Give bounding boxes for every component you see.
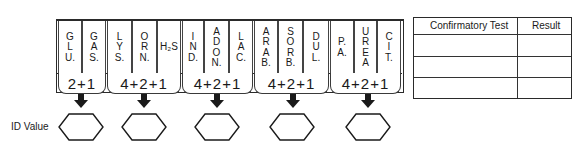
test-label: L A C. (236, 32, 246, 64)
test-label: L Y S. (115, 32, 124, 64)
test-cell-urea: U R E A (354, 21, 377, 74)
test-cell-sorb: S O R B. (278, 21, 303, 74)
id-value-label: ID Value (11, 121, 49, 132)
down-arrow-icon (137, 94, 151, 108)
sum-label-group-2: 4+2+1 (107, 73, 181, 94)
sum-label-group-3: 4+2+1 (182, 73, 253, 94)
header-confirmatory-test: Confirmatory Test (430, 20, 508, 31)
table-row[interactable] (414, 78, 571, 98)
test-cell-lac: L A C. (229, 21, 253, 74)
test-label: C I T. (385, 32, 393, 64)
id-value-box-3[interactable] (194, 113, 240, 141)
sum-label-group-4: 4+2+1 (254, 73, 329, 94)
test-label: A R A B. (261, 27, 270, 69)
down-arrow-icon (74, 94, 88, 108)
id-value-box-4[interactable] (269, 113, 315, 141)
test-label: D U L. (312, 32, 320, 64)
id-value-box-1[interactable] (58, 113, 104, 141)
test-label: G L U. (65, 32, 75, 64)
test-cell-lys: L Y S. (107, 21, 132, 74)
sum-label-group-5: 4+2+1 (330, 73, 401, 94)
confirmatory-test-table: Confirmatory Test Result (413, 17, 572, 99)
sum-label-group-1: 2+1 (58, 73, 106, 94)
test-label: U R E A (362, 27, 369, 69)
header-result: Result (532, 20, 560, 31)
test-label: P. A. (337, 37, 346, 58)
test-label: S O R B. (286, 27, 295, 69)
test-label: I N D. (188, 32, 198, 64)
test-cell-adon: A D O N. (204, 21, 229, 74)
test-cell-ind: I N D. (182, 21, 204, 74)
test-cell-dul: D U L. (303, 21, 329, 74)
test-cell-h2s: H₂S (157, 21, 181, 74)
table-row[interactable] (414, 57, 571, 77)
id-value-box-5[interactable] (345, 113, 391, 141)
test-cell-pa: P. A. (330, 21, 354, 74)
test-label: H₂S (160, 42, 178, 53)
test-cell-glu: G L U. (58, 21, 82, 74)
down-arrow-icon (210, 94, 224, 108)
table-row[interactable] (414, 35, 571, 56)
id-value-box-2[interactable] (121, 113, 167, 141)
test-cell-cit: C I T. (377, 21, 401, 74)
test-cell-orn: O R N. (132, 21, 157, 74)
test-cell-gas: G A S. (82, 21, 106, 74)
test-label: A D O N. (212, 27, 222, 69)
test-panel: G L U. G A S. L Y S. O R N. H₂S I N D. A… (56, 19, 404, 93)
test-label: O R N. (140, 32, 150, 64)
test-cell-arab: A R A B. (254, 21, 278, 74)
down-arrow-icon (286, 94, 300, 108)
test-label: G A S. (89, 32, 98, 64)
down-arrow-icon (361, 94, 375, 108)
